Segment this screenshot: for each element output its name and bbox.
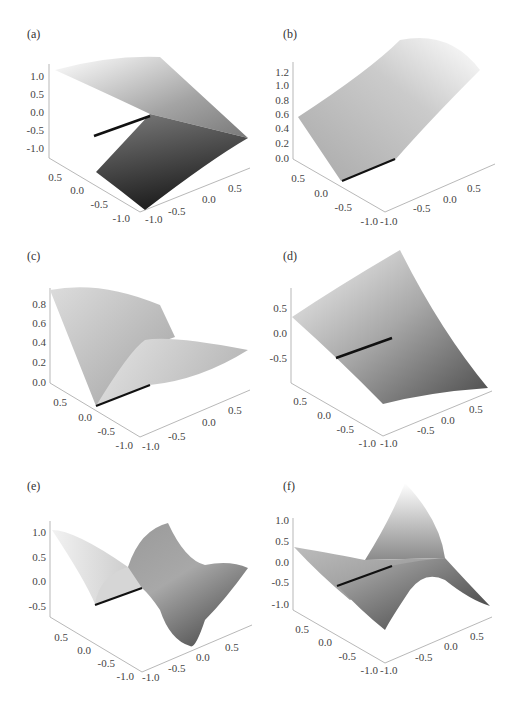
svg-text:0.2: 0.2 — [275, 137, 289, 149]
surface — [298, 38, 480, 181]
panel-e: (e) 1.0 0.5 0.0 -0.5 0.5 0.0 -0.5 -1.0 -… — [27, 479, 252, 683]
svg-text:-0.5: -0.5 — [168, 662, 186, 674]
svg-text:-0.5: -0.5 — [91, 198, 109, 210]
svg-text:0.0: 0.0 — [275, 556, 289, 568]
x-axis-ticks: 0.5 0.0 -0.5 -1.0 — [291, 172, 378, 227]
panel-label: (f) — [283, 479, 295, 493]
svg-text:0.0: 0.0 — [318, 636, 332, 648]
svg-text:-1.0: -1.0 — [27, 142, 45, 154]
svg-text:-1.0: -1.0 — [117, 670, 135, 682]
panel-c: (c) 0.8 0.6 0.4 0.2 0.0 0.5 0.0 -0.5 -1.… — [27, 249, 250, 452]
svg-text:-1.0: -1.0 — [145, 213, 163, 225]
svg-text:0.6: 0.6 — [32, 317, 46, 329]
svg-text:0.0: 0.0 — [317, 409, 331, 421]
panel-label: (e) — [27, 479, 40, 493]
svg-text:0.5: 0.5 — [469, 403, 483, 415]
panel-a: (a) 1.0 0.5 0.0 -0.5 -1.0 0.5 0.0 -0.5 -… — [27, 27, 250, 225]
svg-text:0.0: 0.0 — [32, 376, 46, 388]
z-axis-ticks: 1.2 1.0 0.8 0.6 0.4 0.2 0.0 — [275, 66, 289, 164]
z-axis-ticks: 0.5 0.0 -0.5 — [270, 302, 288, 364]
svg-text:-0.5: -0.5 — [98, 657, 116, 669]
svg-text:0.5: 0.5 — [53, 396, 67, 408]
x-axis-ticks: 0.5 0.0 -0.5 -1.0 — [295, 623, 378, 676]
svg-text:0.0: 0.0 — [202, 416, 216, 428]
svg-text:0.0: 0.0 — [273, 327, 287, 339]
svg-text:0.5: 0.5 — [291, 172, 305, 184]
svg-text:-1.0: -1.0 — [142, 440, 160, 452]
panel-label: (c) — [27, 249, 40, 263]
panel-label: (a) — [27, 27, 40, 41]
svg-text:0.0: 0.0 — [441, 414, 455, 426]
svg-text:0.5: 0.5 — [273, 302, 287, 314]
y-axis-ticks: -1.0 -0.5 0.0 0.5 — [142, 641, 239, 683]
figure: (a) 1.0 0.5 0.0 -0.5 -1.0 0.5 0.0 -0.5 -… — [0, 0, 519, 701]
svg-text:-1.0: -1.0 — [361, 664, 379, 676]
svg-text:0.5: 0.5 — [470, 630, 484, 642]
surface — [292, 250, 488, 404]
svg-text:0.0: 0.0 — [196, 651, 210, 663]
y-axis-ticks: -1.0 -0.5 0.0 0.5 — [380, 403, 483, 449]
svg-text:0.4: 0.4 — [275, 122, 289, 134]
svg-text:0.0: 0.0 — [32, 575, 46, 587]
svg-text:0.5: 0.5 — [32, 551, 46, 563]
svg-text:0.6: 0.6 — [275, 108, 289, 120]
y-axis-ticks: -1.0 -0.5 0.0 0.5 — [142, 404, 242, 452]
svg-text:-1.0: -1.0 — [142, 671, 160, 683]
x-axis-ticks: 0.5 0.0 -0.5 -1.0 — [53, 396, 133, 451]
svg-text:1.2: 1.2 — [275, 66, 289, 78]
svg-text:-1.0: -1.0 — [272, 598, 290, 610]
svg-text:0.0: 0.0 — [30, 106, 44, 118]
svg-text:0.5: 0.5 — [293, 395, 307, 407]
svg-text:0.0: 0.0 — [77, 644, 91, 656]
svg-text:0.0: 0.0 — [275, 152, 289, 164]
svg-text:0.5: 0.5 — [225, 641, 239, 653]
svg-text:-1.0: -1.0 — [113, 212, 131, 224]
svg-text:-0.5: -0.5 — [335, 201, 353, 213]
svg-text:0.5: 0.5 — [30, 88, 44, 100]
z-axis-ticks: 1.0 0.5 0.0 -0.5 — [29, 526, 47, 612]
svg-text:-0.5: -0.5 — [29, 600, 47, 612]
panel-b: (b) 1.2 1.0 0.8 0.6 0.4 0.2 0.0 0.5 0.0 … — [275, 27, 495, 227]
svg-text:0.5: 0.5 — [54, 631, 68, 643]
svg-text:0.0: 0.0 — [202, 193, 216, 205]
svg-text:-1.0: -1.0 — [359, 437, 377, 449]
svg-text:0.5: 0.5 — [295, 623, 309, 635]
svg-text:-0.5: -0.5 — [339, 650, 357, 662]
svg-text:0.5: 0.5 — [275, 535, 289, 547]
svg-text:0.5: 0.5 — [467, 182, 481, 194]
svg-text:-0.5: -0.5 — [98, 425, 116, 437]
svg-text:-1.0: -1.0 — [116, 439, 134, 451]
y-axis-ticks: -1.0 -0.5 0.0 0.5 — [380, 630, 484, 676]
svg-text:-0.5: -0.5 — [272, 576, 290, 588]
z-axis-ticks: 1.0 0.5 0.0 -0.5 -1.0 — [27, 70, 45, 154]
svg-text:0.0: 0.0 — [78, 411, 92, 423]
svg-text:0.5: 0.5 — [48, 171, 62, 183]
panel-f: (f) 1.0 0.5 0.0 -0.5 -1.0 0.5 0.0 -0.5 -… — [272, 479, 492, 676]
svg-text:0.0: 0.0 — [443, 193, 457, 205]
surface — [50, 287, 248, 406]
svg-text:1.0: 1.0 — [32, 526, 46, 538]
panel-d: (d) 0.5 0.0 -0.5 0.5 0.0 -0.5 -1.0 -1.0 … — [270, 249, 492, 449]
y-axis-ticks: -1.0 -0.5 0.0 0.5 — [380, 182, 481, 227]
panel-label: (b) — [283, 27, 297, 41]
svg-text:-0.5: -0.5 — [168, 430, 186, 442]
svg-text:-1.0: -1.0 — [361, 215, 379, 227]
x-axis-ticks: 0.5 0.0 -0.5 -1.0 — [54, 631, 134, 682]
svg-text:1.0: 1.0 — [30, 70, 44, 82]
svg-text:0.5: 0.5 — [228, 182, 242, 194]
svg-text:1.0: 1.0 — [275, 79, 289, 91]
surface — [294, 483, 490, 630]
svg-text:-0.5: -0.5 — [337, 423, 355, 435]
svg-text:0.5: 0.5 — [228, 404, 242, 416]
surface — [52, 523, 248, 646]
svg-text:-1.0: -1.0 — [380, 664, 398, 676]
z-axis-ticks: 0.8 0.6 0.4 0.2 0.0 — [32, 298, 46, 388]
svg-text:-0.5: -0.5 — [417, 424, 435, 436]
svg-text:0.8: 0.8 — [275, 94, 289, 106]
svg-text:0.8: 0.8 — [32, 298, 46, 310]
svg-text:-0.5: -0.5 — [270, 352, 288, 364]
svg-text:0.0: 0.0 — [314, 187, 328, 199]
svg-text:-1.0: -1.0 — [380, 215, 398, 227]
svg-text:-1.0: -1.0 — [380, 437, 398, 449]
x-axis-ticks: 0.5 0.0 -0.5 -1.0 — [293, 395, 376, 449]
